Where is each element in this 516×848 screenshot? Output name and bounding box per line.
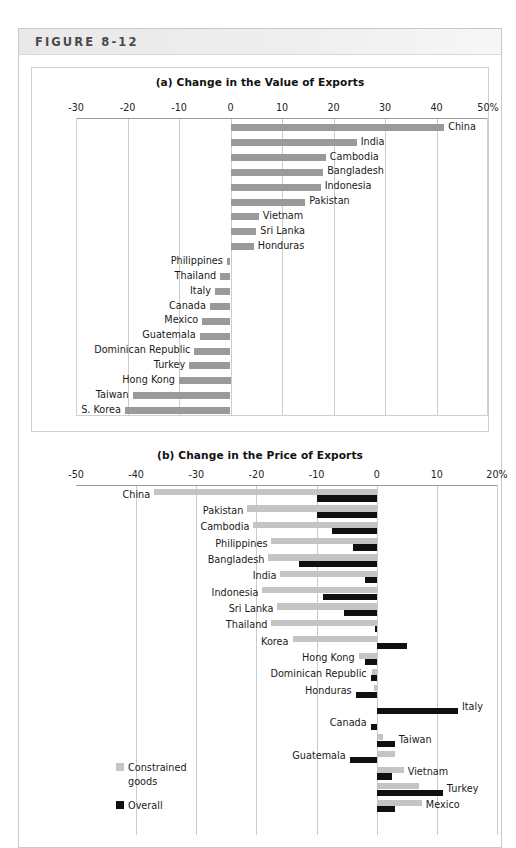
bar-category-label: Guatemala bbox=[292, 750, 345, 761]
bar-overall bbox=[356, 692, 377, 698]
bar bbox=[200, 333, 231, 340]
x-tick-label: -30 bbox=[68, 102, 84, 113]
bar-overall bbox=[375, 626, 377, 632]
legend-label-constrained-goods: Constrained goods bbox=[128, 761, 206, 789]
bar-constrained-goods bbox=[374, 685, 377, 691]
x-tick-label: 10 bbox=[276, 102, 288, 113]
bar-category-label: Korea bbox=[261, 636, 288, 647]
bar-category-label: Honduras bbox=[305, 685, 352, 696]
bar-overall bbox=[371, 724, 377, 730]
figure-number-label: FIGURE 8-12 bbox=[35, 35, 139, 49]
bar-overall bbox=[317, 495, 377, 501]
bar-overall bbox=[299, 561, 377, 567]
bar bbox=[231, 199, 306, 206]
bar-constrained-goods bbox=[262, 587, 376, 593]
legend-swatch-overall bbox=[116, 801, 124, 809]
bar-category-label: India bbox=[361, 136, 385, 147]
bar-category-label: Turkey bbox=[447, 783, 479, 794]
bar bbox=[220, 273, 230, 280]
bar-category-label: Cambodia bbox=[200, 521, 249, 532]
bar-overall bbox=[350, 757, 377, 763]
bar-category-label: Italy bbox=[190, 285, 211, 296]
x-tick-label: -10 bbox=[309, 469, 325, 480]
bar-category-label: Hong Kong bbox=[122, 374, 175, 385]
bar-category-label: Dominican Republic bbox=[270, 668, 366, 679]
bar-overall bbox=[377, 773, 392, 779]
gridline bbox=[437, 485, 438, 835]
x-tick-label: -50 bbox=[68, 469, 84, 480]
figure-header-banner: FIGURE 8-12 bbox=[19, 29, 501, 55]
bar-category-label: Thailand bbox=[175, 270, 217, 281]
bar-category-label: S. Korea bbox=[81, 404, 121, 415]
bar-overall bbox=[332, 528, 377, 534]
bar-category-label: Philippines bbox=[215, 538, 267, 549]
bar-category-label: Italy bbox=[462, 701, 483, 712]
bar-constrained-goods bbox=[271, 620, 376, 626]
x-tick-label: 10 bbox=[431, 469, 443, 480]
x-tick-label: 0 bbox=[227, 102, 233, 113]
bar-category-label: Honduras bbox=[258, 240, 305, 251]
chart-b-plot-area: -50-40-30-20-1001020%ChinaPakistanCambod… bbox=[31, 443, 489, 837]
bar-category-label: Mexico bbox=[426, 799, 460, 810]
plot-frame bbox=[76, 118, 488, 416]
chart-a-plot-area: -30-20-1001020304050%ChinaIndiaCambodiaB… bbox=[32, 68, 488, 431]
bar-overall bbox=[353, 544, 377, 550]
bar-category-label: Thailand bbox=[226, 619, 268, 630]
x-tick-label: 50% bbox=[477, 102, 498, 113]
legend-label-overall: Overall bbox=[128, 799, 206, 813]
x-tick-label: 20 bbox=[327, 102, 339, 113]
bar bbox=[125, 407, 231, 414]
bar-category-label: Guatemala bbox=[142, 329, 195, 340]
bar-constrained-goods bbox=[280, 571, 376, 577]
bar-category-label: India bbox=[253, 570, 277, 581]
bar-category-label: Indonesia bbox=[212, 587, 259, 598]
bar-constrained-goods bbox=[277, 603, 376, 609]
bar-constrained-goods bbox=[377, 767, 404, 773]
x-tick-label: 30 bbox=[379, 102, 391, 113]
bar-category-label: Taiwan bbox=[96, 389, 129, 400]
bar-overall bbox=[371, 675, 377, 681]
figure-card: FIGURE 8-12 (a) Change in the Value of E… bbox=[18, 28, 502, 848]
bar-category-label: Canada bbox=[330, 717, 367, 728]
bar-overall bbox=[323, 594, 377, 600]
bar-category-label: Mexico bbox=[164, 314, 198, 325]
bar bbox=[231, 228, 257, 235]
bar-constrained-goods bbox=[372, 669, 377, 675]
bar-overall bbox=[377, 806, 395, 812]
bar bbox=[215, 288, 230, 295]
bar-overall bbox=[365, 659, 377, 665]
bar bbox=[231, 169, 324, 176]
gridline bbox=[497, 485, 498, 835]
bar-constrained-goods bbox=[268, 554, 376, 560]
bar-constrained-goods bbox=[377, 751, 395, 757]
bar-overall bbox=[365, 577, 377, 583]
bar bbox=[227, 258, 231, 265]
bar-category-label: Pakistan bbox=[309, 195, 350, 206]
bar bbox=[194, 348, 230, 355]
bar-category-label: China bbox=[448, 121, 476, 132]
bar-overall bbox=[377, 741, 395, 747]
bar-category-label: Pakistan bbox=[203, 505, 244, 516]
bar-category-label: Taiwan bbox=[399, 734, 432, 745]
bar-constrained-goods bbox=[293, 636, 377, 642]
bar-overall bbox=[377, 643, 407, 649]
bar-category-label: Bangladesh bbox=[327, 165, 384, 176]
x-tick-label: -20 bbox=[120, 102, 136, 113]
bar-constrained-goods bbox=[359, 653, 377, 659]
bar-overall bbox=[377, 790, 443, 796]
bar-constrained-goods bbox=[377, 702, 379, 708]
bar bbox=[231, 154, 326, 161]
bar-category-label: Turkey bbox=[154, 359, 186, 370]
bar-constrained-goods bbox=[377, 783, 419, 789]
bar bbox=[231, 124, 445, 131]
bar bbox=[231, 184, 321, 191]
bar bbox=[189, 362, 230, 369]
bar-category-label: Vietnam bbox=[408, 766, 448, 777]
bar-constrained-goods bbox=[247, 505, 376, 511]
bar-overall bbox=[377, 708, 458, 714]
bar bbox=[231, 139, 357, 146]
bar-category-label: Canada bbox=[169, 300, 206, 311]
chart-panel-b: (b) Change in the Price of Exports -50-4… bbox=[31, 443, 489, 837]
bar bbox=[133, 392, 231, 399]
axis-line bbox=[76, 485, 497, 486]
